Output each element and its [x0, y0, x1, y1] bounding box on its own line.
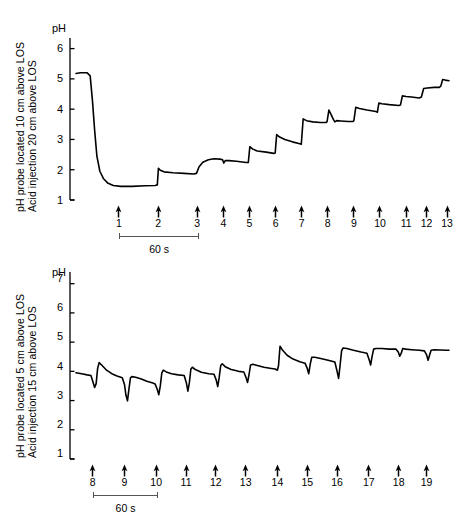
top-ytick-6: 6: [49, 43, 63, 54]
top-panel-injection-markers: 12345678910111213: [66, 205, 451, 231]
bottom-panel-scalebar-label: 60 s: [94, 502, 157, 514]
injection-label-10: 10: [371, 217, 389, 229]
bottom-ytick-7: 7: [49, 273, 63, 284]
bottom-ytick-5: 5: [49, 331, 63, 342]
injection-label-6: 6: [267, 217, 285, 229]
injection-label-14: 14: [268, 476, 286, 488]
injection-label-10: 10: [147, 476, 165, 488]
injection-label-16: 16: [328, 476, 346, 488]
panel-top: pH probe located 10 cm above LOS Acid in…: [0, 0, 456, 262]
bottom-ytick-1: 1: [49, 448, 63, 459]
injection-label-13: 13: [438, 217, 456, 229]
injection-label-12: 12: [418, 217, 436, 229]
top-panel-scalebar-bar: 60 s: [119, 233, 199, 239]
bottom-ytick-4: 4: [49, 361, 63, 372]
injection-label-18: 18: [390, 476, 408, 488]
injection-label-13: 13: [237, 476, 255, 488]
top-ytick-5: 5: [49, 73, 63, 84]
injection-label-15: 15: [298, 476, 316, 488]
top-panel-caption-line-1: pH probe located 10 cm above LOS: [14, 42, 26, 212]
injection-label-3: 3: [188, 217, 206, 229]
bottom-ytick-2: 2: [49, 419, 63, 430]
injection-label-17: 17: [360, 476, 378, 488]
injection-label-11: 11: [177, 476, 195, 488]
top-panel-y-axis: [70, 38, 75, 200]
bottom-panel-y-axis-caption: pH probe located 5 cm above LOS Acid inj…: [14, 294, 38, 458]
bottom-panel-y-axis: [70, 272, 75, 459]
top-ytick-1: 1: [49, 195, 63, 206]
top-ytick-2: 2: [49, 165, 63, 176]
injection-label-19: 19: [418, 476, 436, 488]
top-panel-plot-area: [66, 38, 451, 210]
bottom-panel-caption-line-1: pH probe located 5 cm above LOS: [14, 294, 26, 458]
injection-label-2: 2: [149, 217, 167, 229]
bottom-panel-scalebar-bar: 60 s: [93, 492, 158, 498]
top-panel-scalebar-label: 60 s: [120, 243, 198, 255]
injection-label-9: 9: [345, 217, 363, 229]
injection-label-1: 1: [110, 217, 128, 229]
injection-label-9: 9: [115, 476, 133, 488]
top-panel-scalebar: 60 s: [119, 230, 197, 246]
top-ytick-3: 3: [49, 134, 63, 145]
bottom-panel-scalebar: 60 s: [93, 489, 156, 505]
injection-label-7: 7: [293, 217, 311, 229]
injection-label-8: 8: [84, 476, 102, 488]
bottom-panel-injection-markers: 8910111213141516171819: [66, 464, 451, 490]
injection-label-12: 12: [207, 476, 225, 488]
top-ytick-4: 4: [49, 104, 63, 115]
top-panel-y-axis-caption: pH probe located 10 cm above LOS Acid in…: [14, 42, 38, 212]
top-panel-axis-title: pH: [52, 22, 66, 34]
bottom-panel-svg: [66, 272, 451, 464]
bottom-ytick-3: 3: [49, 390, 63, 401]
bottom-panel-plot-area: [66, 272, 451, 464]
bottom-ytick-6: 6: [49, 302, 63, 313]
bottom-panel-caption-line-2: Acid injection 15 cm above LOS: [26, 294, 38, 458]
injection-label-8: 8: [319, 217, 337, 229]
injection-label-4: 4: [214, 217, 232, 229]
top-panel-caption-line-2: Acid injection 20 cm above LOS: [26, 42, 38, 212]
injection-label-5: 5: [240, 217, 258, 229]
bottom-panel-trace: [76, 346, 449, 401]
top-panel-svg: [66, 38, 451, 210]
injection-label-11: 11: [397, 217, 415, 229]
panel-bottom: pH probe located 5 cm above LOS Acid inj…: [0, 258, 456, 523]
top-panel-trace: [76, 73, 449, 187]
